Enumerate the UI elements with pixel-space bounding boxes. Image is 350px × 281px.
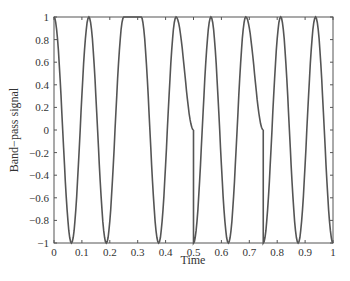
x-tick-label: 0.2 xyxy=(103,246,117,258)
y-tick-label: 0.2 xyxy=(35,101,49,113)
y-tick-label: −0.4 xyxy=(29,169,49,181)
chart: 00.10.20.30.40.50.60.70.80.91−1−0.8−0.6−… xyxy=(0,0,350,281)
y-tick-label: −0.8 xyxy=(29,214,49,226)
x-tick-label: 0.3 xyxy=(131,246,145,258)
x-tick-label: 0 xyxy=(51,246,57,258)
y-axis-label: Band−pass signal xyxy=(7,87,21,172)
y-tick-label: −1 xyxy=(37,237,49,249)
x-tick-label: 0.6 xyxy=(215,246,229,258)
x-tick-label: 0.8 xyxy=(270,246,284,258)
y-tick-label: 0.8 xyxy=(35,34,49,46)
signal-line xyxy=(54,17,333,243)
y-tick-label: 1 xyxy=(44,11,50,23)
y-tick-label: −0.2 xyxy=(29,147,49,159)
y-tick-label: 0.4 xyxy=(35,79,49,91)
y-tick-label: 0.6 xyxy=(35,56,49,68)
x-tick-label: 0.4 xyxy=(159,246,173,258)
y-tick-label: 0 xyxy=(44,124,50,136)
x-tick-label: 0.9 xyxy=(298,246,312,258)
y-tick-label: −0.6 xyxy=(29,192,49,204)
x-tick-label: 1 xyxy=(330,246,336,258)
x-tick-label: 0.1 xyxy=(75,246,89,258)
x-tick-label: 0.7 xyxy=(242,246,256,258)
x-axis-label: Time xyxy=(181,253,206,267)
